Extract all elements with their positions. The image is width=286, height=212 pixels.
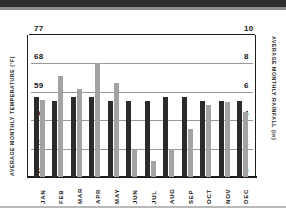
rainfall-bar bbox=[188, 129, 193, 177]
rainfall-bar bbox=[77, 89, 82, 177]
rainfall-bar bbox=[58, 76, 63, 177]
x-axis-label: JUN bbox=[132, 190, 138, 204]
right-tick-label: 10 bbox=[244, 24, 254, 33]
x-axis-label: AUG bbox=[169, 188, 175, 204]
bar-group bbox=[108, 35, 127, 177]
rainfall-bar bbox=[132, 150, 137, 177]
temperature-bar bbox=[71, 97, 76, 177]
bar-group bbox=[89, 35, 108, 177]
x-axis-label: OCT bbox=[206, 189, 212, 204]
bar-group bbox=[219, 35, 238, 177]
rainfall-bar bbox=[225, 102, 230, 177]
bar-group bbox=[163, 35, 182, 177]
bar-group bbox=[34, 35, 53, 177]
x-axis-label: APR bbox=[95, 189, 101, 204]
bar-group bbox=[126, 35, 145, 177]
temperature-bar bbox=[89, 97, 94, 177]
bar-group bbox=[237, 35, 256, 177]
rainfall-bar bbox=[169, 149, 174, 177]
x-axis-label: MAY bbox=[114, 189, 120, 204]
temperature-bar bbox=[163, 97, 168, 177]
rainfall-bar bbox=[95, 63, 100, 177]
temperature-bar bbox=[200, 101, 205, 177]
temperature-bar bbox=[52, 101, 57, 177]
x-axis-label: DEC bbox=[243, 189, 249, 204]
rainfall-bar bbox=[151, 161, 156, 177]
rainfall-bar bbox=[40, 100, 45, 177]
temperature-bar bbox=[219, 101, 224, 177]
right-axis-title: AVERAGE MONTHLY RAINFALL (in) bbox=[271, 36, 277, 140]
bar-group bbox=[200, 35, 219, 177]
temperature-bar bbox=[237, 101, 242, 177]
bar-group bbox=[71, 35, 90, 177]
rainfall-bar bbox=[206, 105, 211, 177]
temperature-bar bbox=[34, 97, 39, 177]
x-axis-label: NOV bbox=[225, 189, 231, 204]
x-axis-label: FEB bbox=[58, 190, 64, 204]
temperature-bar bbox=[126, 101, 131, 177]
temperature-bar bbox=[145, 101, 150, 177]
bar-group bbox=[145, 35, 164, 177]
temperature-bar bbox=[108, 101, 113, 177]
rainfall-bar bbox=[243, 112, 248, 177]
chart-figure: AVERAGE MONTHLY TEMPERATURE (°F) AVERAGE… bbox=[0, 0, 286, 212]
scan-band-light bbox=[0, 7, 286, 10]
x-axis-label: JUL bbox=[151, 190, 157, 204]
temperature-bar bbox=[182, 97, 187, 177]
plot-frame-left bbox=[27, 35, 28, 178]
x-axis-label: JAN bbox=[40, 190, 46, 204]
left-axis-title: AVERAGE MONTHLY TEMPERATURE (°F) bbox=[9, 56, 15, 176]
bar-group bbox=[182, 35, 201, 177]
left-tick-label: 77 bbox=[34, 24, 44, 33]
scan-band-dark bbox=[0, 0, 286, 7]
x-axis-label: SEP bbox=[188, 190, 194, 204]
rainfall-bar bbox=[114, 83, 119, 177]
x-axis-label: MAR bbox=[77, 188, 83, 204]
plot-area bbox=[31, 35, 253, 177]
bar-group bbox=[52, 35, 71, 177]
page-rule bbox=[0, 206, 286, 208]
